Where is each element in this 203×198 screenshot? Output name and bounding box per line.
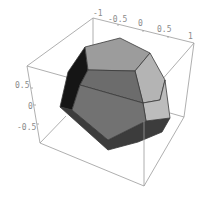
tick-label: -0.5	[17, 123, 36, 132]
tick-label: 1	[188, 32, 193, 41]
tick-label: 0.5	[15, 81, 30, 90]
tick-label: 0	[138, 19, 143, 28]
left-axis-labels: 0.5 0 -0.5	[15, 81, 36, 132]
top-axis-labels: -1 -0.5 0 0.5 1	[93, 9, 193, 41]
dodecahedron-plot: -1 -0.5 0 0.5 1 0.5 0 -0.5	[0, 0, 203, 198]
tick-label: -1	[93, 9, 103, 18]
tick-label: -0.5	[108, 15, 127, 24]
tick-label: 0	[28, 102, 33, 111]
tick-label: 0.5	[157, 25, 172, 34]
dodecahedron	[60, 38, 170, 150]
